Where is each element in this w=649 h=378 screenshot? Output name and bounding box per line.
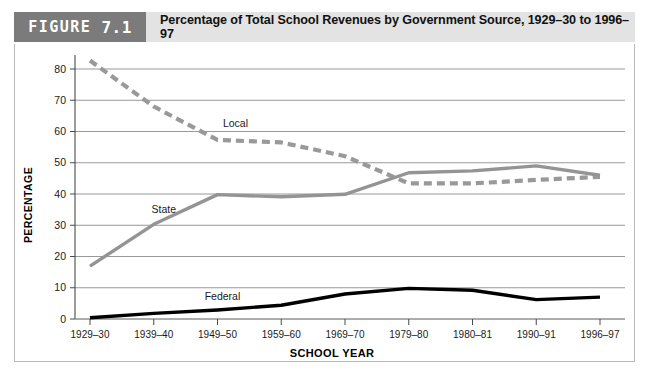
y-tick-label: 40 xyxy=(54,188,66,200)
y-tick-labels-group: 01020304050607080 xyxy=(54,63,66,325)
series-line-federal xyxy=(90,288,600,317)
y-tick-label: 10 xyxy=(54,281,66,293)
series-line-local xyxy=(90,61,600,184)
x-tick-label: 1929–30 xyxy=(71,329,110,340)
series-line-state xyxy=(90,166,600,266)
series-label-state: State xyxy=(151,203,176,215)
x-axis-title: SCHOOL YEAR xyxy=(290,347,375,359)
y-tick-label: 70 xyxy=(54,94,66,106)
y-tick-label: 30 xyxy=(54,219,66,231)
x-tick-label: 1996–97 xyxy=(581,329,620,340)
series-labels-group: LocalStateFederal xyxy=(151,117,248,302)
data-series-group xyxy=(90,61,600,318)
chart-plot-area: 01020304050607080 1929–301939–401949–501… xyxy=(0,0,649,378)
y-axis-title: PERCENTAGE xyxy=(22,167,34,243)
y-tick-label: 60 xyxy=(54,125,66,137)
y-tick-label: 0 xyxy=(60,313,66,325)
series-label-federal: Federal xyxy=(205,290,241,302)
x-tick-label: 1949–50 xyxy=(198,329,237,340)
y-tick-label: 20 xyxy=(54,250,66,262)
axis-lines-group xyxy=(75,55,625,325)
y-tick-label: 50 xyxy=(54,156,66,168)
x-tick-label: 1980–81 xyxy=(453,329,492,340)
x-tick-label: 1979–80 xyxy=(389,329,428,340)
x-tick-label: 1959–60 xyxy=(262,329,301,340)
x-tick-label: 1939–40 xyxy=(134,329,173,340)
x-tick-label: 1990–91 xyxy=(517,329,556,340)
line-chart-svg: 01020304050607080 1929–301939–401949–501… xyxy=(0,0,649,378)
x-tick-label: 1969–70 xyxy=(326,329,365,340)
series-label-local: Local xyxy=(223,117,248,129)
figure-container: FIGURE 7.1 Percentage of Total School Re… xyxy=(0,0,649,378)
y-tick-label: 80 xyxy=(54,63,66,75)
x-tick-labels-group: 1929–301939–401949–501959–601969–701979–… xyxy=(71,329,620,340)
